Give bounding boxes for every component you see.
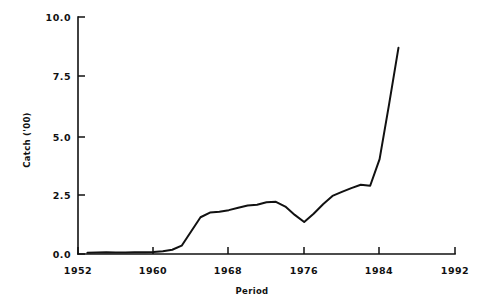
x-axis-title: Period: [236, 286, 269, 296]
y-tick-label-0: 0.0: [53, 249, 71, 260]
y-tick-label-7-5: 7.5: [53, 71, 71, 82]
x-tick-label-1992: 1992: [441, 265, 469, 276]
line-chart-svg: 10.0 7.5 5.0 2.5 0.0 1952 1960 1968 1976…: [0, 0, 478, 306]
chart-figure: 10.0 7.5 5.0 2.5 0.0 1952 1960 1968 1976…: [0, 0, 478, 306]
x-tick-label-1952: 1952: [64, 265, 92, 276]
y-tick-label-5: 5.0: [53, 132, 71, 143]
y-axis-title: Catch ('00): [22, 112, 32, 168]
x-tick-label-1984: 1984: [365, 265, 393, 276]
y-tick-label-10: 10.0: [46, 12, 71, 23]
x-tick-label-1976: 1976: [290, 265, 318, 276]
data-series-catch: [87, 48, 398, 253]
x-tick-label-1960: 1960: [139, 265, 167, 276]
y-tick-label-2-5: 2.5: [53, 190, 71, 201]
x-tick-label-1968: 1968: [214, 265, 242, 276]
y-axis-ticks: [78, 17, 85, 254]
